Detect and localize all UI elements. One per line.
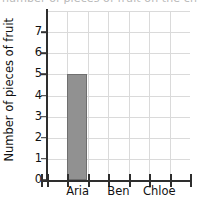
- x-axis-label-ben: Ben: [107, 186, 129, 198]
- bar-aria: [67, 74, 87, 180]
- y-axis-tick-label: 0: [20, 174, 42, 186]
- gridline-vertical: [170, 11, 171, 180]
- y-axis-tick-label: 3: [20, 111, 42, 123]
- y-axis-tick-label: 7: [20, 26, 42, 38]
- y-axis-title-text: Number of pieces of fruit: [4, 18, 16, 162]
- gridline-horizontal: [47, 53, 190, 54]
- y-axis-tick-mark: [41, 52, 47, 54]
- y-axis-tick-mark: [41, 31, 47, 33]
- x-axis-label-aria: Aria: [66, 186, 89, 198]
- gridline-vertical: [108, 11, 109, 180]
- gridline-horizontal: [47, 11, 190, 12]
- plot-area: [47, 11, 190, 180]
- x-axis-tick-mark: [190, 174, 192, 187]
- gridline-vertical: [129, 11, 130, 180]
- x-axis-label-chloe: Chloe: [143, 186, 176, 198]
- y-axis-tick-mark: [41, 158, 47, 160]
- y-axis-tick-mark: [41, 179, 47, 181]
- gridline-vertical: [88, 11, 89, 180]
- y-axis-tick-label: 1: [20, 153, 42, 165]
- y-axis-tick-mark: [41, 137, 47, 139]
- y-axis-tick-label: 2: [20, 132, 42, 144]
- gridline-horizontal: [47, 32, 190, 33]
- y-axis-tick-label: 4: [20, 90, 42, 102]
- y-axis-tick-mark: [41, 116, 47, 118]
- gridline-vertical: [149, 11, 150, 180]
- y-axis-tick-label: 6: [20, 48, 42, 60]
- y-axis-title: Number of pieces of fruit: [0, 0, 20, 180]
- y-axis-tick-mark: [41, 95, 47, 97]
- y-axis-tick-mark: [41, 74, 47, 76]
- y-axis-tick-label: 5: [20, 69, 42, 81]
- x-axis-tick-mark: [47, 174, 49, 187]
- bar-chart: Number of pieces of fruit 01234567 AriaB…: [0, 0, 197, 203]
